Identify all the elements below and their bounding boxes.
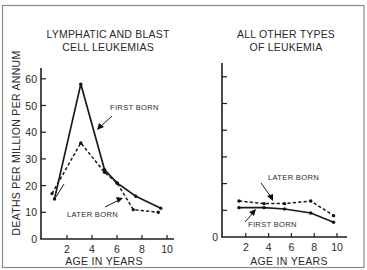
right-x-axis-label: AGE IN YEARS: [250, 255, 328, 267]
left-x-tick-label: 6: [114, 243, 120, 255]
left-later-born-point: [132, 208, 135, 211]
right-x-tick-label: 2: [243, 241, 249, 253]
right-first-born-point: [262, 206, 265, 209]
left-y-tick-label: 60: [25, 73, 37, 85]
right-later-born-label: LATER BORN: [268, 173, 319, 182]
left-later-born-label: LATER BORN: [67, 210, 118, 219]
right-chart-title-line-2: OF LEUKEMIA: [250, 41, 323, 53]
left-first-born-point: [53, 197, 56, 200]
right-first-born-label: FIRST BORN: [248, 220, 297, 229]
right-x-tick-label: 8: [311, 241, 317, 253]
right-later-born-point: [283, 202, 286, 205]
right-first-born-point: [309, 211, 312, 214]
left-chart-title-line-1: LYMPHATIC AND BLAST: [46, 28, 169, 40]
right-first-born-point: [237, 206, 240, 209]
left-first-born-point: [79, 82, 82, 85]
right-x-tick-label: 4: [266, 241, 272, 253]
right-later-born-point: [262, 202, 265, 205]
left-x-tick-label: 10: [161, 243, 173, 255]
left-later-born-point: [103, 171, 106, 174]
y-axis-label: DEATHS PER MILLION PER ANNUM: [10, 51, 22, 236]
left-y-tick-label: 40: [25, 126, 37, 138]
right-x-tick-label: 6: [288, 241, 294, 253]
left-y-tick-label: 0: [31, 233, 37, 245]
left-first-born-label: FIRST BORN: [110, 103, 159, 112]
left-x-tick-label: 4: [89, 243, 95, 255]
left-first-born-point: [134, 195, 137, 198]
left-x-tick-label: 2: [64, 243, 70, 255]
left-first-born-point: [159, 207, 162, 210]
right-first-born-point: [332, 221, 335, 224]
left-later-born-point: [115, 181, 118, 184]
left-y-tick-label: 20: [25, 180, 37, 192]
left-y-tick-label: 30: [25, 153, 37, 165]
left-later-born-point: [50, 192, 53, 195]
right-x-tick-label: 10: [331, 241, 343, 253]
right-later-born-point: [332, 214, 335, 217]
left-x-tick-label: 8: [139, 243, 145, 255]
right-first-born-point: [283, 207, 286, 210]
right-later-born-point: [309, 199, 312, 202]
leukemia-figure: LYMPHATIC AND BLAST CELL LEUKEMIAS DEATH…: [0, 0, 367, 270]
left-later-born-point: [79, 141, 82, 144]
left-y-tick-label: 10: [25, 206, 37, 218]
right-later-born-point: [237, 199, 240, 202]
left-y-tick-label: 50: [25, 100, 37, 112]
right-chart-title-line-1: ALL OTHER TYPES: [237, 28, 335, 40]
right-y-tick-label: 0: [212, 231, 218, 243]
left-later-born-point: [157, 211, 160, 214]
left-chart-title-line-2: CELL LEUKEMIAS: [62, 41, 154, 53]
left-x-axis-label: AGE IN YEARS: [65, 255, 143, 267]
